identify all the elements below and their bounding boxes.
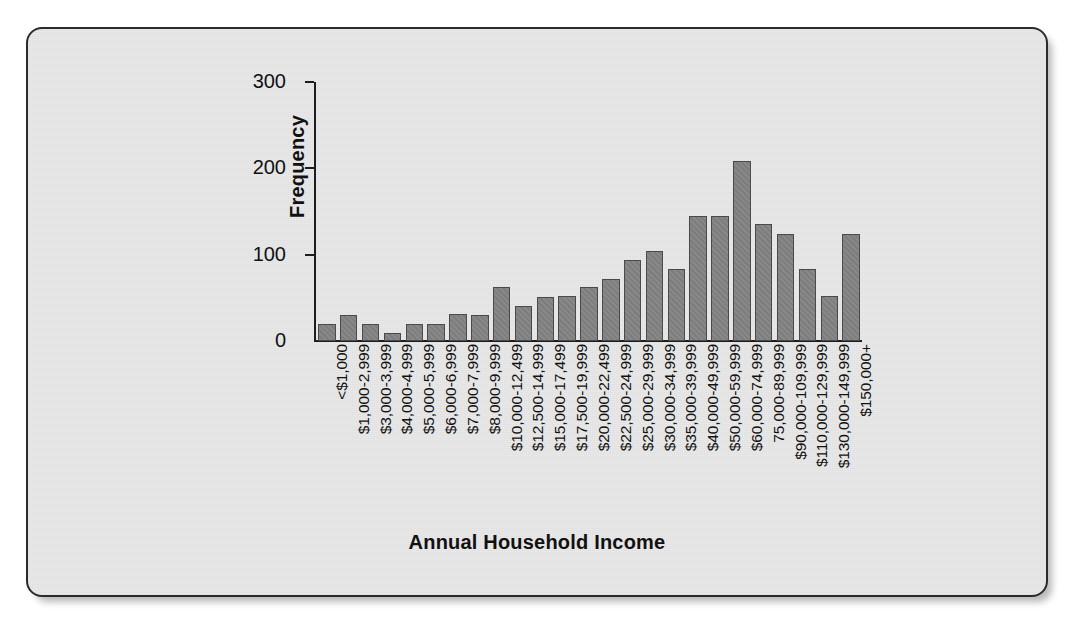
histogram-bar	[318, 324, 335, 341]
chart-panel: Frequency 0100200300 <$1,000$1,000-2,999…	[26, 27, 1048, 597]
x-tick-label: $3,000-3,999	[377, 344, 395, 434]
histogram-bar	[733, 161, 750, 341]
x-tick-label: $30,000-34,999	[661, 344, 679, 451]
y-tick-label: 0	[232, 330, 286, 350]
plot-area	[316, 82, 862, 341]
x-tick-label: $150,000+	[857, 344, 875, 417]
histogram-bar	[624, 260, 641, 341]
histogram-bar	[449, 314, 466, 341]
x-tick-label: $40,000-49,999	[704, 344, 722, 451]
x-tick-label: $90,000-109,999	[792, 344, 810, 460]
x-tick-label: $25,000-29,999	[639, 344, 657, 451]
histogram-bar	[646, 251, 663, 341]
x-axis-tick-labels: <$1,000$1,000-2,999$3,000-3,999$4,000-4,…	[316, 344, 862, 559]
histogram-bar	[799, 269, 816, 341]
x-tick-label: $8,000-9,999	[486, 344, 504, 434]
histogram-bar	[537, 297, 554, 341]
histogram-bar	[777, 234, 794, 341]
x-tick-label: $22,500-24,999	[617, 344, 635, 451]
histogram-bar	[755, 224, 772, 341]
x-tick-label: $10,000-12,499	[508, 344, 526, 451]
histogram-bar	[427, 324, 444, 341]
y-tick-mark	[305, 167, 314, 169]
x-tick-label: $1,000-2,999	[355, 344, 373, 434]
histogram-bar	[711, 216, 728, 341]
histogram-bar	[842, 234, 859, 341]
x-tick-label: $60,000-74,999	[748, 344, 766, 451]
x-axis-title: Annual Household Income	[28, 531, 1046, 554]
x-tick-label: $12,500-14,999	[529, 344, 547, 451]
x-tick-label: $15,000-17,499	[551, 344, 569, 451]
histogram-bar	[689, 216, 706, 341]
histogram-bar	[384, 333, 401, 341]
x-tick-label: $5,000-5,999	[420, 344, 438, 434]
histogram-bar	[406, 324, 423, 341]
histogram-bar	[515, 306, 532, 341]
histogram-bar	[821, 296, 838, 341]
x-tick-label: $130,000-149,999	[835, 344, 853, 468]
x-tick-label: $50,000-59,999	[726, 344, 744, 451]
x-tick-label: $20,000-22,499	[595, 344, 613, 451]
histogram-bar	[471, 315, 488, 341]
y-tick-label: 300	[232, 71, 286, 91]
histogram-chart: Frequency 0100200300 <$1,000$1,000-2,999…	[28, 29, 1046, 595]
x-tick-label: $35,000-39,999	[682, 344, 700, 451]
histogram-bar	[340, 315, 357, 341]
y-axis-tick-labels: 0100200300	[230, 29, 286, 595]
x-tick-label: $6,000-6,999	[442, 344, 460, 434]
x-tick-label: <$1,000	[333, 344, 351, 400]
histogram-bar	[362, 324, 379, 341]
x-tick-label: $110,000-129,999	[813, 344, 831, 467]
y-tick-mark	[305, 254, 314, 256]
histogram-bar	[558, 296, 575, 341]
histogram-bar	[493, 287, 510, 341]
histogram-bar	[580, 287, 597, 341]
y-tick-mark	[305, 81, 314, 83]
y-tick-label: 200	[232, 157, 286, 177]
x-tick-label: $17,500-19,999	[573, 344, 591, 451]
histogram-bar	[602, 279, 619, 341]
x-tick-label: 75,000-89,999	[770, 344, 788, 443]
x-tick-label: $7,000-7,999	[464, 344, 482, 434]
x-tick-label: $4,000-4,999	[398, 344, 416, 434]
y-tick-label: 100	[232, 244, 286, 264]
histogram-bar	[668, 269, 685, 341]
